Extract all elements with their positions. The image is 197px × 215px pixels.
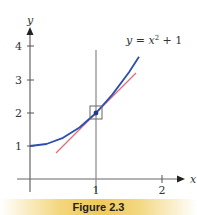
x-tick-label-2: 2: [159, 184, 166, 197]
curve-label-suffix: + 1: [159, 34, 182, 47]
x-axis-label: x: [190, 173, 197, 186]
y-tick-label-3: 3: [15, 74, 22, 87]
y-axis-arrow-icon: [27, 27, 34, 35]
x-tick-label-1: 1: [93, 184, 100, 197]
y-tick-label-1: 1: [15, 140, 22, 153]
curve-label-prefix: y = x: [125, 34, 155, 47]
figure-caption: Figure 2.3: [0, 199, 197, 215]
y-axis-label: y: [26, 14, 34, 27]
x-axis-arrow-icon: [177, 176, 185, 183]
curve-label: y = x2 + 1: [125, 34, 182, 47]
tangent-point: [94, 111, 99, 116]
y-tick-label-2: 2: [15, 107, 22, 120]
curve-x-squared-plus-1: [30, 57, 139, 146]
figure-caption-bar: Figure 2.3: [0, 199, 197, 215]
function-plot: y x 1 2 3 4 1 2 y = x2 + 1: [0, 0, 197, 215]
y-tick-label-4: 4: [15, 40, 22, 53]
